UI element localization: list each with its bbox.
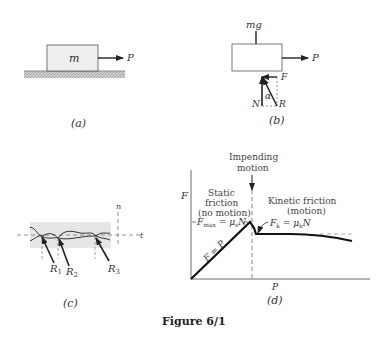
impending-text-2: motion bbox=[237, 163, 269, 173]
panel-d: F P Impending motion Static friction (no… bbox=[180, 152, 370, 307]
impending-text-1: Impending bbox=[229, 152, 278, 162]
static-text-1: Static bbox=[208, 188, 235, 198]
panel-a: m P (a) bbox=[24, 45, 134, 130]
panel-c: n t R1 R2 R3 (c) bbox=[17, 202, 144, 310]
tangent-axis-label: t bbox=[140, 231, 144, 240]
force-label: P bbox=[126, 52, 134, 63]
figure-caption: Figure 6/1 bbox=[162, 315, 226, 328]
static-text-2: friction bbox=[205, 198, 238, 208]
panel-b-label: (b) bbox=[269, 114, 285, 127]
y-axis-label: F bbox=[180, 190, 189, 201]
normal-axis-label: n bbox=[116, 202, 121, 211]
reaction-label-1: R1 bbox=[49, 263, 62, 276]
panel-d-label: (d) bbox=[267, 294, 283, 307]
fmax-label: Fmax = μsN bbox=[196, 217, 247, 228]
ground-surface bbox=[24, 71, 125, 78]
reaction-label-3: R3 bbox=[107, 263, 120, 276]
resultant-label: R bbox=[278, 99, 286, 109]
applied-force-label: P bbox=[311, 52, 319, 63]
panel-c-label: (c) bbox=[63, 297, 78, 310]
x-axis-label: P bbox=[271, 282, 279, 292]
kinetic-text-2: (motion) bbox=[287, 206, 326, 216]
fk-pointer-arrow bbox=[258, 222, 268, 233]
figure-canvas: m P (a) mg P F α N R (b) n t bbox=[0, 0, 378, 339]
free-body-block bbox=[232, 44, 282, 71]
angle-label: α bbox=[265, 91, 271, 101]
normal-label: N bbox=[251, 99, 261, 109]
slope-label: F = P bbox=[201, 238, 228, 264]
friction-label: F bbox=[280, 72, 288, 82]
kinetic-text-1: Kinetic friction bbox=[268, 196, 337, 206]
reaction-label-2: R2 bbox=[65, 266, 78, 279]
panel-a-label: (a) bbox=[71, 117, 86, 130]
block-label: m bbox=[69, 52, 79, 65]
fk-label: Fk = μkN bbox=[269, 218, 312, 229]
panel-b: mg P F α N R (b) bbox=[232, 19, 319, 127]
weight-label: mg bbox=[246, 19, 262, 30]
